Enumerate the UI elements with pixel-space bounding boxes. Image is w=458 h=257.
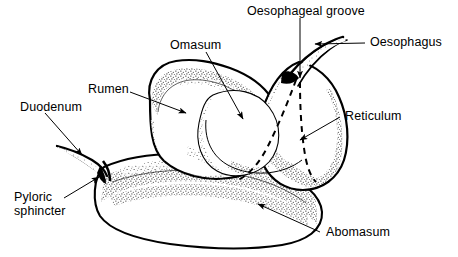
label-abomasum: Abomasum bbox=[326, 226, 390, 240]
label-oesophageal-groove: Oesophageal groove bbox=[247, 5, 365, 19]
duodenum-shape bbox=[57, 146, 110, 184]
label-omasum: Omasum bbox=[170, 39, 221, 53]
label-pyloric-sphincter: Pyloric sphincter bbox=[14, 191, 66, 218]
label-rumen: Rumen bbox=[88, 83, 129, 97]
label-reticulum: Reticulum bbox=[345, 110, 401, 124]
leader-oesophagus bbox=[315, 43, 365, 44]
label-duodenum: Duodenum bbox=[20, 101, 82, 115]
diagram-canvas: Oesophageal groove Oesophagus Omasum Rum… bbox=[0, 0, 458, 257]
label-oesophagus: Oesophagus bbox=[370, 36, 442, 50]
